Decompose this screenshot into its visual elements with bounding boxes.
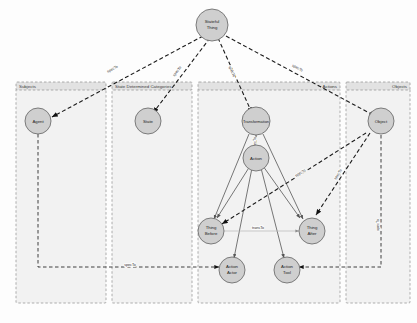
diagram-canvas: Subjects State Determined Categories Act… xyxy=(0,0,417,323)
node-label-action: Action xyxy=(250,156,263,161)
edge-label-object-to-action-tool: specTo xyxy=(376,219,380,231)
node-state[interactable]: State xyxy=(135,108,161,134)
node-label-state: State xyxy=(143,119,154,124)
node-label-stateful-thing-line1: Stateful xyxy=(205,19,220,24)
node-thing-after[interactable]: Thing After xyxy=(299,218,325,244)
edge-label-stateful-thing-to-object: specTo xyxy=(291,64,303,73)
node-label-thing-before-line1: Thing xyxy=(206,225,217,230)
edge-label-agent-to-action-actor: specTo xyxy=(124,263,136,267)
node-transformation[interactable]: Transformation xyxy=(242,107,270,135)
node-thing-before[interactable]: Thing Before xyxy=(198,218,224,244)
node-label-action-actor-line2: Actor xyxy=(227,270,238,275)
node-label-object: Object xyxy=(375,119,388,124)
node-agent[interactable]: Agent xyxy=(25,108,51,134)
group-label-objects: Objects xyxy=(392,84,408,89)
edge-label-transto: transTo xyxy=(252,226,264,230)
node-label-action-actor-line1: Action xyxy=(226,264,239,269)
node-label-action-tool-line2: Tool xyxy=(283,270,291,275)
node-label-thing-before-line2: Before xyxy=(205,231,218,236)
node-object[interactable]: Object xyxy=(368,108,394,134)
edge-label-stateful-thing-to-state: specTo xyxy=(172,66,182,78)
edge-label-stateful-thing-to-agent: specTo xyxy=(106,65,118,74)
node-label-transformation: Transformation xyxy=(243,119,269,124)
node-label-action-tool-line1: Action xyxy=(281,264,294,269)
node-label-thing-after-line1: Thing xyxy=(307,225,318,230)
node-action-actor[interactable]: Action Actor xyxy=(219,257,245,283)
node-action-tool[interactable]: Action Tool xyxy=(274,257,300,283)
diagram-svg: Subjects State Determined Categories Act… xyxy=(0,0,417,323)
group-label-subjects: Subjects xyxy=(19,84,37,89)
node-stateful-thing[interactable]: Stateful Thing xyxy=(196,9,228,41)
node-label-stateful-thing-line2: Thing xyxy=(207,25,218,30)
group-label-actions: Actions xyxy=(323,84,338,89)
edge-label-stateful-thing-to-transformation: specTo xyxy=(228,65,237,77)
node-label-agent: Agent xyxy=(32,119,44,124)
node-label-thing-after-line2: After xyxy=(307,231,317,236)
group-label-state-determined-categories: State Determined Categories xyxy=(115,84,172,89)
node-action[interactable]: Action xyxy=(243,145,269,171)
